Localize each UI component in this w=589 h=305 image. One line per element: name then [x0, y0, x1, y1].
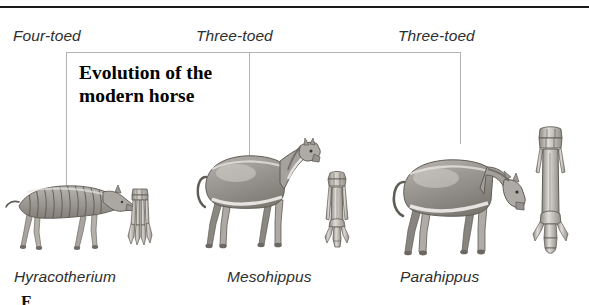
hyracotherium-horse-illustration [5, 176, 135, 258]
bracket-stem-parahippus [460, 52, 461, 144]
figure-title: Evolution of the modern horse [79, 61, 254, 107]
figure-top-rule [0, 6, 589, 8]
toe-label-hyracotherium: Four-toed [13, 27, 81, 45]
figure-title-line-1: Evolution of the [79, 61, 254, 84]
three-toed-elongated-foot-bone-illustration [528, 126, 572, 258]
three-toed-foot-bone-illustration [319, 171, 355, 251]
mesohippus-horse-illustration [196, 137, 321, 255]
bracket-horizontal-rail [66, 52, 461, 53]
genus-label-hyracotherium: Hyracotherium [14, 268, 116, 286]
figure-title-line-2: modern horse [79, 84, 254, 107]
genus-label-parahippus: Parahippus [400, 268, 479, 286]
horse-evolution-figure: Four-toed Three-toed Three-toed Evolutio… [0, 0, 589, 305]
parahippus-horse-illustration [392, 140, 530, 262]
genus-label-mesohippus: Mesohippus [227, 268, 312, 286]
toe-label-parahippus: Three-toed [398, 27, 475, 45]
four-toed-foot-bone-illustration [124, 186, 156, 248]
figure-caption-stub: F [21, 292, 31, 305]
toe-label-mesohippus: Three-toed [196, 27, 273, 45]
bracket-stem-hyracotherium [66, 52, 67, 186]
